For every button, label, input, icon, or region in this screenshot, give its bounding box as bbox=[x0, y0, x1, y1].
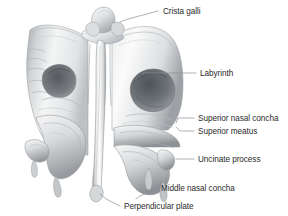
label-crista-galli: Crista galli bbox=[163, 7, 201, 16]
label-uncinate-process: Uncinate process bbox=[198, 155, 260, 164]
left-middle-concha bbox=[25, 115, 86, 197]
ethmoid-bone-illustration: Crista galli Labyrinth Superior nasal co… bbox=[0, 0, 288, 216]
leader-superior-meatus bbox=[176, 127, 194, 131]
leader-crista-galli bbox=[120, 11, 158, 22]
left-nasal-slot bbox=[88, 44, 90, 104]
perpendicular-plate bbox=[90, 40, 106, 202]
label-middle-nasal-concha: Middle nasal concha bbox=[161, 184, 235, 193]
anatomical-figure: Crista galli Labyrinth Superior nasal co… bbox=[0, 0, 288, 216]
label-labyrinth: Labyrinth bbox=[200, 69, 234, 78]
crista-galli bbox=[86, 7, 125, 36]
label-perpendicular-plate: Perpendicular plate bbox=[124, 202, 194, 211]
label-superior-meatus: Superior meatus bbox=[198, 127, 257, 136]
right-labyrinth bbox=[112, 26, 183, 130]
right-middle-concha bbox=[114, 145, 175, 202]
label-superior-nasal-concha: Superior nasal concha bbox=[198, 114, 279, 123]
leader-superior-nasal-concha bbox=[176, 118, 194, 123]
right-nasal-slot bbox=[110, 44, 111, 106]
